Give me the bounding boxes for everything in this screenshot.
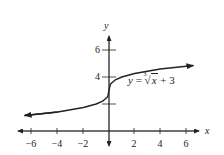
cube-root: 3√x (145, 74, 158, 86)
x-tick-label: 2 (132, 138, 137, 149)
x-axis-label: x (204, 125, 210, 136)
eq-tail: + 3 (158, 74, 175, 86)
radicand: x (151, 73, 158, 86)
x-tick-label: 6 (184, 138, 189, 149)
x-tick-label: −2 (78, 138, 89, 149)
graph-canvas: −6 −4 −2 2 4 6 4 6 x y (0, 0, 224, 155)
x-tick-label: −4 (52, 138, 63, 149)
equation-label: y = 3√x + 3 (128, 74, 175, 86)
y-tick-label: 4 (95, 71, 100, 82)
x-tick-label: −6 (26, 138, 37, 149)
y-axis-label: y (103, 20, 109, 31)
x-tick-label: 4 (158, 138, 163, 149)
root-index: 3 (144, 71, 147, 77)
y-tick-label: 6 (95, 44, 100, 55)
